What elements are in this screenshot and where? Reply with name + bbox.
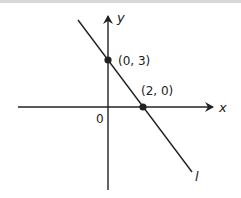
x-axis-label: x (218, 100, 227, 115)
y-axis-label: y (116, 10, 125, 25)
point-label-0-3: (0, 3) (118, 54, 150, 68)
point-2-0 (139, 103, 146, 110)
point-label-2-0: (2, 0) (141, 84, 173, 98)
point-0-3 (104, 56, 111, 63)
coordinate-plane: y x 0 (0, 3) (2, 0) l (0, 0, 241, 198)
origin-label: 0 (96, 112, 104, 126)
line-l (78, 20, 192, 172)
line-label: l (195, 169, 199, 184)
